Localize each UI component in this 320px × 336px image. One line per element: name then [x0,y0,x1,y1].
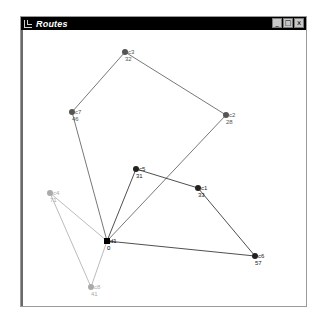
title-bar[interactable]: Routes _ □ x [21,17,306,30]
node-demand-label: 71 [50,197,57,203]
route-edge-c3-c2 [125,52,226,115]
node-id-label: c7 [75,109,82,115]
routes-canvas[interactable]: c332c746c228c531c133c471d10c657c841 [21,30,306,306]
window-title: Routes [36,19,68,29]
route-nodes: c332c746c228c531c133c471d10c657c841 [47,49,265,297]
routes-window: Routes _ □ x c332c746c228c531c133c471d10… [20,16,307,307]
route-edge-c7-c3 [72,52,125,112]
node-c7[interactable]: c746 [69,109,82,122]
node-id-label: c8 [94,284,101,290]
route-edge-c1-c6 [198,188,255,256]
node-demand-label: 32 [125,56,132,62]
node-id-label: c3 [128,49,135,55]
node-id-label: c1 [201,185,208,191]
window-controls: _ □ x [272,18,304,28]
node-demand-label: 0 [107,245,111,251]
node-demand-label: 46 [72,116,79,122]
app-icon[interactable] [24,20,32,28]
node-c6[interactable]: c657 [252,253,265,266]
node-c1[interactable]: c133 [195,185,208,198]
route-edge-c8-d1 [91,241,107,287]
route-edge-d1-c7 [72,112,107,241]
node-demand-label: 41 [91,291,98,297]
node-id-label: c4 [53,190,60,196]
minimize-button[interactable]: _ [272,18,282,28]
route-graph: c332c746c228c531c133c471d10c657c841 [23,30,308,306]
node-demand-label: 33 [198,192,205,198]
node-id-label: c5 [139,166,146,172]
route-edges [50,52,255,287]
route-edge-c6-d1 [107,241,255,256]
node-c3[interactable]: c332 [122,49,135,62]
node-c2[interactable]: c228 [223,112,236,125]
route-edge-d1-c5 [107,169,136,241]
node-demand-label: 31 [136,173,143,179]
node-id-label: c6 [258,253,265,259]
node-id-label: d1 [110,238,117,244]
maximize-button[interactable]: □ [283,18,293,28]
node-demand-label: 28 [226,119,233,125]
route-edge-c4-c8 [50,193,91,287]
node-c8[interactable]: c841 [88,284,101,297]
route-edge-d1-c4 [50,193,107,241]
node-demand-label: 57 [255,260,262,266]
node-id-label: c2 [229,112,236,118]
close-button[interactable]: x [294,18,304,28]
node-c4[interactable]: c471 [47,190,60,203]
